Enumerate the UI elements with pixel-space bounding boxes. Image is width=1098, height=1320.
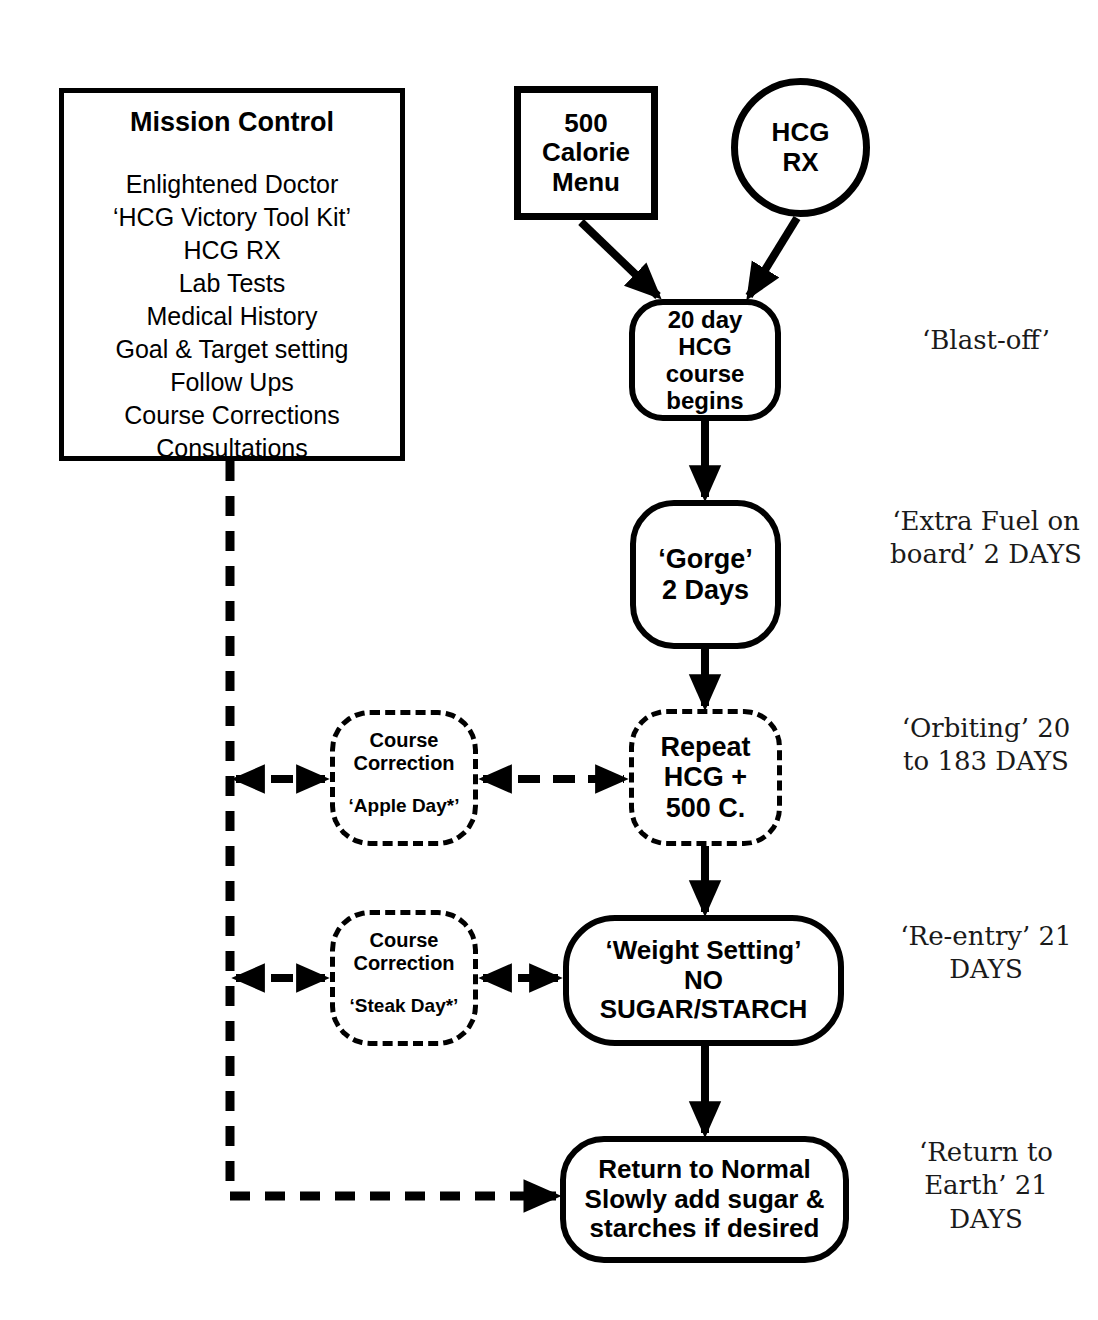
correction-heading: Course Correction	[353, 929, 454, 975]
node-line: 20 day	[668, 306, 743, 333]
mission-control-item: ‘HCG Victory Tool Kit’	[113, 201, 351, 234]
phase-label-blast-off: ‘Blast-off’	[886, 324, 1086, 357]
correction-heading: Course Correction	[353, 729, 454, 775]
node-hcg-rx: HCG RX	[731, 78, 870, 217]
node-weight-setting: ‘Weight Setting’ NO SUGAR/STARCH	[563, 915, 844, 1046]
mission-control-title: Mission Control	[130, 107, 334, 138]
node-line: starches if desired	[590, 1214, 820, 1243]
phase-line: ‘Re-entry’	[900, 921, 1030, 951]
node-line: HCG	[772, 118, 830, 147]
mission-control-item: Medical History	[113, 300, 351, 333]
node-line: Course	[353, 729, 454, 752]
phase-line: 2 DAYS	[984, 539, 1082, 569]
node-line: HCG	[678, 333, 731, 360]
mission-control-item: Enlightened Doctor	[113, 168, 351, 201]
node-line: ‘Weight Setting’	[606, 936, 802, 965]
phase-line: DAYS	[995, 746, 1069, 776]
node-line: NO	[684, 966, 723, 995]
edge-hcg-rx-to-course-begins	[749, 218, 797, 296]
phase-label-orbiting: ‘Orbiting’ 20 to 183 DAYS	[886, 712, 1086, 779]
node-line: Menu	[552, 168, 620, 197]
node-line: Course	[353, 929, 454, 952]
node-line: Slowly add sugar &	[585, 1185, 825, 1214]
phase-line: Earth’	[924, 1170, 1006, 1200]
mission-control-list: Enlightened Doctor ‘HCG Victory Tool Kit…	[113, 168, 351, 465]
mission-control-item: Course Corrections	[113, 399, 351, 432]
node-line: Return to Normal	[598, 1155, 810, 1184]
node-return-to-normal: Return to Normal Slowly add sugar & star…	[560, 1136, 849, 1263]
mission-control-item: HCG RX	[113, 234, 351, 267]
node-line: Repeat	[660, 732, 750, 763]
phase-label-return-to-earth: ‘Return to Earth’ 21 DAYS	[886, 1136, 1086, 1236]
node-course-correction-apple-day: Course Correction ‘Apple Day*’	[330, 710, 478, 846]
node-500-calorie-menu: 500 Calorie Menu	[514, 86, 658, 220]
node-line: RX	[782, 148, 818, 177]
phase-line: ‘Return to	[919, 1137, 1053, 1167]
node-line: Correction	[353, 752, 454, 775]
node-course-correction-steak-day: Course Correction ‘Steak Day*’	[330, 910, 478, 1046]
phase-line: ‘Extra Fuel	[892, 506, 1039, 536]
mission-control-item: Goal & Target setting	[113, 333, 351, 366]
node-repeat-hcg-500-calories: Repeat HCG + 500 C.	[629, 709, 782, 846]
node-line: course	[666, 360, 745, 387]
phase-line: ‘Orbiting’	[902, 713, 1029, 743]
phase-label-extra-fuel-on-board: ‘Extra Fuel on board’ 2 DAYS	[886, 505, 1086, 572]
phase-label-re-entry: ‘Re-entry’ 21 DAYS	[886, 920, 1086, 987]
node-line: SUGAR/STARCH	[600, 995, 808, 1024]
node-line: Correction	[353, 952, 454, 975]
node-line: begins	[666, 387, 743, 414]
mission-control-box: Mission Control Enlightened Doctor ‘HCG …	[59, 88, 405, 461]
mission-control-item: Lab Tests	[113, 267, 351, 300]
node-20-day-hcg-course-begins: 20 day HCG course begins	[629, 299, 781, 421]
node-line: HCG +	[664, 762, 747, 793]
mission-control-item: Consultations	[113, 432, 351, 465]
phase-line: ‘Blast-off’	[922, 325, 1050, 355]
node-line: Calorie	[542, 138, 630, 167]
node-line: ‘Gorge’	[658, 544, 753, 575]
flowchart-canvas: Mission Control Enlightened Doctor ‘HCG …	[0, 0, 1098, 1320]
correction-subtitle: ‘Apple Day*’	[349, 795, 460, 816]
node-line: 500 C.	[666, 793, 746, 824]
node-line: 2 Days	[662, 575, 749, 606]
node-line: 500	[564, 109, 607, 138]
edge-calorie-menu-to-course-begins	[581, 222, 658, 296]
node-gorge-2-days: ‘Gorge’ 2 Days	[630, 500, 781, 649]
correction-subtitle: ‘Steak Day*’	[350, 995, 459, 1016]
mission-control-item: Follow Ups	[113, 366, 351, 399]
